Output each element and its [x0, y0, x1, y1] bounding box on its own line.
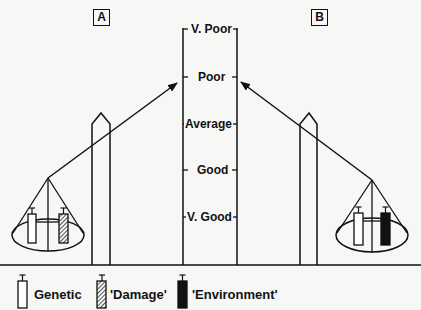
pan-a [12, 178, 84, 251]
panel-label-b: B [311, 9, 328, 26]
weight-genetic-a [28, 208, 36, 243]
scale-label-poor: Poor [197, 71, 226, 83]
fulcrum-a [92, 113, 110, 265]
beam-pointer-a [48, 83, 177, 178]
scale-label-very-poor: V. Poor [190, 23, 233, 35]
weight-damage-a [59, 208, 68, 243]
beam-pointer-b [241, 82, 372, 180]
legend-label-damage: 'Damage' [110, 288, 167, 301]
weight-environment-b [381, 207, 390, 245]
balance-diagram: A B V. Poor Poor Average Good V. Good Ge… [0, 0, 421, 310]
scale-label-very-good: V. Good [186, 211, 233, 223]
legend-swatch-damage [97, 275, 106, 308]
fulcrum-b [300, 113, 317, 265]
legend-swatch-environment [178, 275, 187, 308]
legend-swatch-genetic [18, 275, 27, 308]
panel-label-a: A [93, 9, 110, 26]
legend-label-genetic: Genetic [34, 288, 82, 301]
scale-label-average: Average [184, 118, 233, 130]
diagram-drawing [0, 0, 421, 310]
pan-b [336, 180, 408, 253]
scale-label-good: Good [196, 164, 229, 176]
weight-genetic-b [354, 207, 363, 245]
rating-scale [183, 28, 237, 265]
legend-label-environment: 'Environment' [192, 288, 278, 301]
